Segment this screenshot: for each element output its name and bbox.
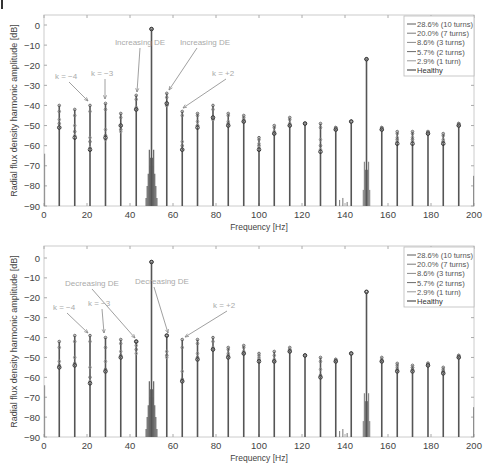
y-tick-label: −90 (24, 201, 40, 212)
x-tick-label: 140 (337, 440, 353, 451)
y-tick-label: −80 (24, 180, 40, 191)
annotation-label: Increasing DE (115, 38, 165, 47)
stem-marker (73, 108, 76, 111)
legend-entry-label: 2.9% (1 turn) (417, 57, 461, 66)
y-tick-label: −60 (24, 140, 40, 151)
y-tick-label: −90 (24, 432, 40, 443)
annotation-arrow (137, 48, 140, 92)
chart-top-increasing-de: 0−10−20−30−40−50−60−70−80−90020406080100… (0, 0, 496, 236)
y-axis-label: Radial flux density harmonic amplitude [… (9, 255, 19, 428)
annotation-arrow (92, 289, 135, 338)
x-tick-label: 0 (41, 440, 46, 451)
annotation-arrow (169, 48, 197, 90)
legend-entry-label: 28.6% (10 turns) (417, 20, 474, 29)
y-tick-label: −50 (24, 120, 40, 131)
y-tick-label: −30 (24, 312, 40, 323)
annotation-arrow (183, 79, 226, 108)
x-tick-label: 100 (251, 440, 267, 451)
y-tick-label: −40 (24, 100, 40, 111)
x-tick-label: 80 (211, 440, 222, 451)
annotations: Increasing DEIncreasing DEk = −4k = −3k … (55, 38, 235, 108)
stem-marker (58, 340, 61, 343)
x-tick-label: 60 (168, 440, 179, 451)
legend-entry-label: 8.6% (3 turns) (417, 38, 465, 47)
stem-marker (181, 338, 184, 341)
x-tick-label: 200 (466, 209, 482, 220)
stem-marker (196, 338, 199, 341)
annotation-label: k = +2 (212, 69, 235, 78)
annotation-label: k = −3 (88, 299, 111, 308)
y-tick-label: 0 (35, 20, 40, 31)
stem-marker (181, 110, 184, 113)
x-tick-label: 100 (251, 209, 267, 220)
x-tick-label: 40 (125, 440, 136, 451)
x-tick-label: 60 (168, 209, 179, 220)
legend: 28.6% (10 turns)20.0% (7 turns)8.6% (3 t… (404, 16, 474, 76)
annotation-arrow (67, 313, 88, 333)
stem-marker (350, 120, 353, 123)
legend-entry-label: 2.9% (1 turn) (417, 288, 461, 297)
y-tick-label: −10 (24, 272, 40, 283)
y-axis-label: Radial flux density harmonic amplitude [… (9, 24, 19, 197)
annotation-label: k = +2 (213, 301, 236, 310)
y-tick-label: 0 (35, 253, 40, 264)
stem-marker (119, 338, 122, 341)
x-tick-label: 140 (337, 209, 353, 220)
annotation-arrow (154, 287, 168, 333)
chart-bottom-canvas: 0−10−20−30−40−50−60−70−80−90020406080100… (0, 236, 496, 473)
x-tick-label: 120 (294, 209, 310, 220)
y-tick-label: −70 (24, 392, 40, 403)
harmonic-stems (57, 27, 460, 206)
y-tick-label: −10 (24, 40, 40, 51)
stem-marker (365, 291, 368, 294)
x-tick-label: 80 (211, 209, 222, 220)
x-tick-label: 20 (82, 440, 93, 451)
legend: 28.6% (10 turns)20.0% (7 turns)8.6% (3 t… (404, 247, 474, 307)
x-tick-label: 180 (423, 209, 439, 220)
y-tick-label: −50 (24, 352, 40, 363)
stem-marker (212, 336, 215, 339)
legend-entry-label: 8.6% (3 turns) (417, 269, 465, 278)
y-tick-label: −30 (24, 80, 40, 91)
x-tick-label: 180 (423, 440, 439, 451)
legend-entry-label: 5.7% (2 turns) (417, 48, 465, 57)
x-tick-label: 160 (380, 440, 396, 451)
stem-marker (165, 334, 168, 337)
x-tick-label: 160 (380, 209, 396, 220)
chart-top-canvas: 0−10−20−30−40−50−60−70−80−90020406080100… (0, 0, 496, 236)
x-axis-label: Frequency [Hz] (230, 453, 288, 463)
annotation-arrow (69, 82, 88, 101)
legend-entry-label: Healthy (417, 66, 443, 75)
annotation-label: Increasing DE (180, 38, 230, 47)
y-tick-label: −60 (24, 372, 40, 383)
x-tick-label: 40 (125, 209, 136, 220)
annotation-label: Decreasing DE (65, 279, 119, 288)
stem-marker (89, 334, 92, 337)
x-tick-label: 200 (466, 440, 482, 451)
y-tick-label: −20 (24, 60, 40, 71)
stem-marker (304, 122, 307, 125)
y-tick-label: −40 (24, 332, 40, 343)
stem-marker (104, 336, 107, 339)
annotation-label: k = −4 (55, 72, 78, 81)
x-tick-label: 0 (41, 209, 46, 220)
annotation-arrow (185, 311, 227, 337)
chart-bottom-decreasing-de: 0−10−20−30−40−50−60−70−80−90020406080100… (0, 236, 496, 473)
annotation-label: k = −3 (91, 69, 114, 78)
stem-marker (73, 334, 76, 337)
annotation-label: k = −4 (53, 303, 76, 312)
annotation-label: Decreasing DE (135, 277, 189, 286)
stem-marker (135, 340, 138, 343)
stem-marker (319, 122, 322, 125)
annotations: Decreasing DEDecreasing DEk = −4k = −3k … (53, 277, 236, 338)
legend-entry-label: 20.0% (7 turns) (417, 260, 469, 269)
legend-entry-label: 28.6% (10 turns) (417, 251, 474, 260)
y-tick-label: −20 (24, 292, 40, 303)
legend-entry-label: 5.7% (2 turns) (417, 279, 465, 288)
x-tick-label: 120 (294, 440, 310, 451)
y-tick-label: −80 (24, 412, 40, 423)
x-tick-label: 20 (82, 209, 93, 220)
legend-entry-label: Healthy (417, 297, 443, 306)
x-axis-label: Frequency [Hz] (230, 222, 288, 232)
y-tick-label: −70 (24, 160, 40, 171)
